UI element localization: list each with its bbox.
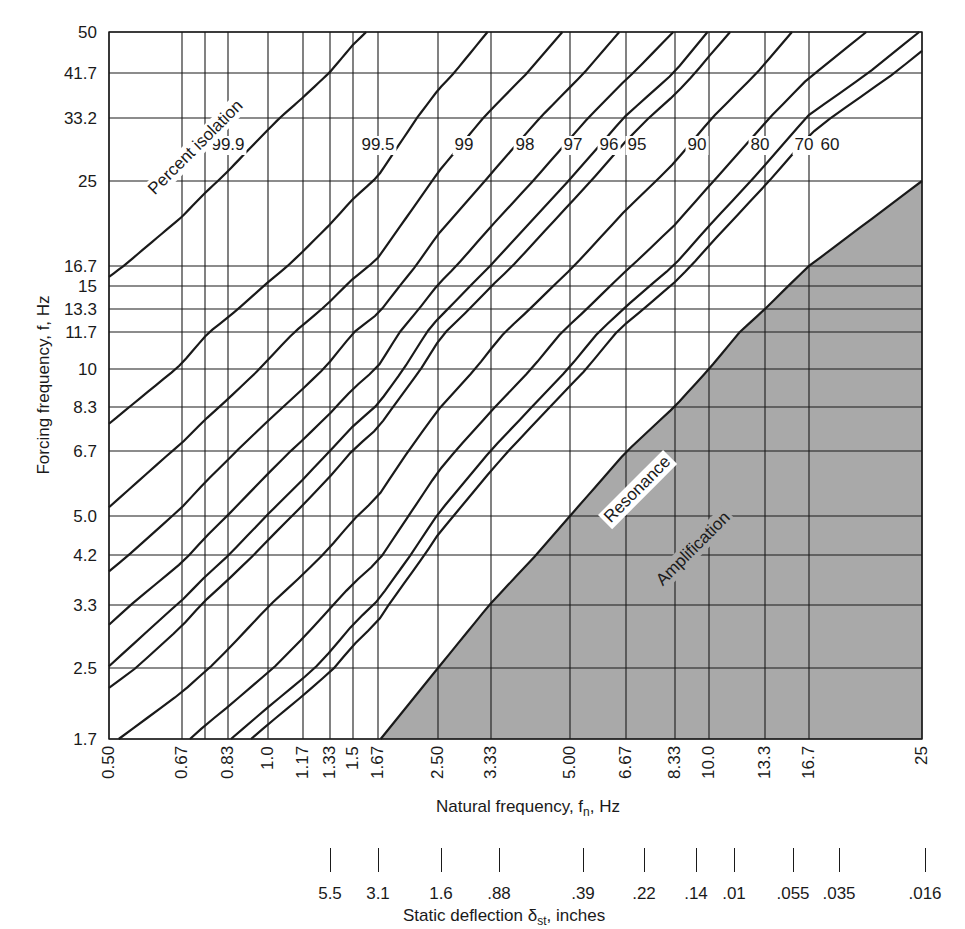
deflection-label: .035 xyxy=(822,884,855,904)
deflection-tick xyxy=(839,848,840,872)
y-tick-label: 16.7 xyxy=(64,258,97,275)
x-tick-label: 0.83 xyxy=(219,746,236,779)
deflection-label: .14 xyxy=(684,884,708,904)
x-tick-label: 16.7 xyxy=(800,746,817,779)
x-tick-label: 2.50 xyxy=(429,746,446,779)
y-tick-label: 25 xyxy=(78,173,97,190)
y-tick-label: 13.3 xyxy=(64,301,97,318)
deflection-tick xyxy=(734,848,735,872)
y-tick-label: 6.7 xyxy=(73,443,97,460)
deflection-label: .39 xyxy=(571,884,595,904)
x-tick-label: 0.50 xyxy=(100,746,117,779)
isolation-line-99.5 xyxy=(109,32,488,424)
isolation-label: 97 xyxy=(562,136,585,155)
deflection-label: 5.5 xyxy=(318,884,342,904)
x-tick-label: 5.00 xyxy=(561,746,578,779)
deflection-label: .22 xyxy=(632,884,656,904)
deflection-tick xyxy=(583,848,584,872)
isolation-line-98 xyxy=(109,32,619,571)
isolation-label: 90 xyxy=(686,136,709,155)
deflection-tick xyxy=(330,848,331,872)
deflection-tick xyxy=(378,848,379,872)
x-tick-label: 3.33 xyxy=(482,746,499,779)
isolation-label: 80 xyxy=(749,136,772,155)
deflection-label: .016 xyxy=(908,884,941,904)
x-tick-label: 0.67 xyxy=(173,746,190,779)
y-tick-label: 11.7 xyxy=(65,324,97,341)
deflection-tick xyxy=(441,848,442,872)
x-tick-label: 25 xyxy=(913,746,930,765)
x-axis-title-sub: n xyxy=(583,805,590,819)
isolation-label: 60 xyxy=(819,136,842,155)
x-tick-label: 6.67 xyxy=(617,746,634,779)
x-tick-label: 8.33 xyxy=(666,746,683,779)
isolation-label: 70 xyxy=(793,136,816,155)
x-axis-title: Natural frequency, fn, Hz xyxy=(436,797,620,819)
isolation-label: 96 xyxy=(598,136,621,155)
isolation-label: 99.5 xyxy=(359,136,396,155)
x-tick-label: 13.3 xyxy=(756,746,773,779)
y-tick-label: 3.3 xyxy=(73,597,97,614)
deflection-tick xyxy=(793,848,794,872)
y-tick-label: 50 xyxy=(78,24,97,41)
deflection-tick xyxy=(925,848,926,872)
deflection-label: 1.6 xyxy=(429,884,453,904)
isolation-label: 95 xyxy=(626,136,649,155)
deflection-tick xyxy=(644,848,645,872)
isolation-line-99 xyxy=(109,32,562,507)
x-tick-label: 1.0 xyxy=(259,746,276,770)
deflection-label: .01 xyxy=(722,884,746,904)
x-tick-label: 1.33 xyxy=(321,746,338,779)
y-axis-title: Forcing frequency, f, Hz xyxy=(34,295,54,474)
y-tick-label: 10 xyxy=(78,361,97,378)
deflection-label: .055 xyxy=(776,884,809,904)
y-tick-label: 15 xyxy=(78,278,97,295)
x-axis-title-main: Natural frequency, f xyxy=(436,797,583,816)
deflection-tick xyxy=(499,848,500,872)
x-tick-label: 1.17 xyxy=(294,746,311,779)
y-tick-label: 2.5 xyxy=(73,660,97,677)
deflection-label: 3.1 xyxy=(366,884,390,904)
static-deflection-title-main: Static deflection δ xyxy=(403,906,537,925)
y-tick-label: 41.7 xyxy=(64,65,97,82)
static-deflection-title-sub: st xyxy=(537,914,546,928)
y-tick-label: 5.0 xyxy=(73,508,97,525)
isolation-label: 99 xyxy=(453,136,476,155)
static-deflection-title: Static deflection δst, inches xyxy=(403,906,605,928)
y-tick-label: 1.7 xyxy=(73,731,97,748)
y-tick-label: 33.2 xyxy=(64,110,97,127)
static-deflection-title-unit: , inches xyxy=(547,906,606,925)
isolation-label: 98 xyxy=(514,136,537,155)
x-tick-label: 1.67 xyxy=(369,746,386,779)
deflection-label: .88 xyxy=(487,884,511,904)
x-tick-label: 10.0 xyxy=(700,746,717,779)
y-tick-label: 4.2 xyxy=(73,547,97,564)
x-tick-label: 1.5 xyxy=(344,746,361,770)
deflection-tick xyxy=(696,848,697,872)
x-axis-title-unit: , Hz xyxy=(590,797,620,816)
y-tick-label: 8.3 xyxy=(73,399,97,416)
